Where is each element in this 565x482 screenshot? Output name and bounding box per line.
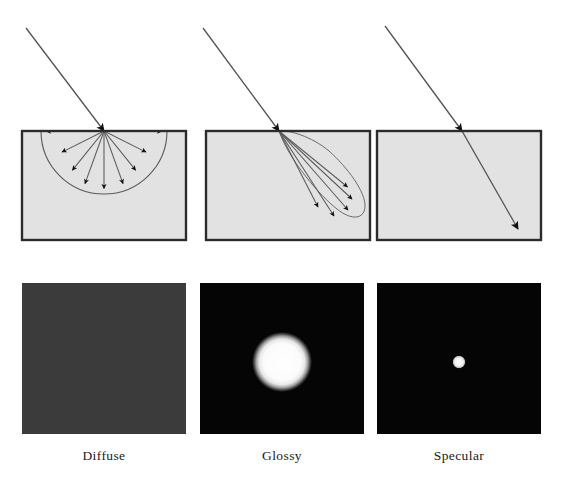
caption-glossy: Glossy	[200, 448, 364, 464]
caption-specular: Specular	[377, 448, 541, 464]
glossy-render-panel	[200, 283, 364, 434]
reflection-models-figure	[0, 0, 565, 482]
specular-surface-rect	[377, 131, 541, 240]
caption-diffuse: Diffuse	[22, 448, 186, 464]
glossy-specular-highlight	[252, 332, 312, 392]
specular-render-panel	[377, 283, 541, 434]
specular-highlight-dot	[453, 356, 466, 369]
diffuse-render-background	[22, 283, 186, 434]
diffuse-render-panel	[22, 283, 186, 434]
